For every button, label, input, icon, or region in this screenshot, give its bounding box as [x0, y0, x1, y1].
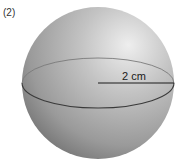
- sphere-diagram: 2 cm: [0, 0, 184, 162]
- radius-label: 2 cm: [122, 70, 146, 82]
